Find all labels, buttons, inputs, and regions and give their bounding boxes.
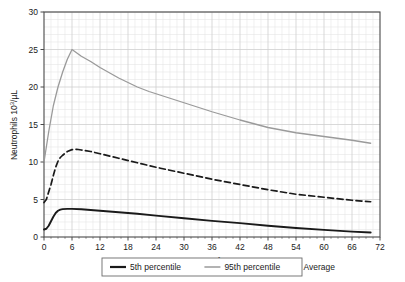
x-tick-label: 54 <box>291 242 301 252</box>
legend-label-5th-percentile: 5th percentile <box>130 262 181 272</box>
y-tick-label: 10 <box>29 157 39 167</box>
x-tick-label: 66 <box>347 242 357 252</box>
x-tick-label: 60 <box>319 242 329 252</box>
legend-label-95th-percentile: 95th percentile <box>224 262 280 272</box>
x-tick-label: 6 <box>70 242 75 252</box>
x-tick-label: 48 <box>263 242 273 252</box>
y-axis-title: Neutrophils 103/µL <box>9 90 19 160</box>
chart-legend: 5th percentile95th percentileAverage <box>102 258 335 276</box>
legend-label-average: Average <box>303 262 335 272</box>
y-axis-title-main: Neutrophils 10 <box>9 105 19 160</box>
y-tick-label: 20 <box>29 82 39 92</box>
neutrophils-chart-figure: 061218243036424854606672 051015202530 Ho… <box>0 0 405 282</box>
x-tick-label: 36 <box>207 242 217 252</box>
x-tick-label: 30 <box>179 242 189 252</box>
y-tick-label: 25 <box>29 45 39 55</box>
y-tick-label: 0 <box>33 232 38 242</box>
chart-canvas: 061218243036424854606672 051015202530 Ho… <box>0 0 405 282</box>
x-tick-label: 72 <box>375 242 385 252</box>
x-tick-label: 0 <box>42 242 47 252</box>
svg-text:Neutrophils 103/µL: Neutrophils 103/µL <box>9 90 19 160</box>
x-tick-label: 24 <box>151 242 161 252</box>
x-tick-label: 42 <box>235 242 245 252</box>
x-tick-label: 18 <box>123 242 133 252</box>
x-tick-label: 12 <box>95 242 105 252</box>
y-tick-label: 5 <box>33 195 38 205</box>
y-tick-label: 15 <box>29 120 39 130</box>
y-tick-label: 30 <box>29 7 39 17</box>
y-axis-title-units: /µL <box>9 90 19 102</box>
